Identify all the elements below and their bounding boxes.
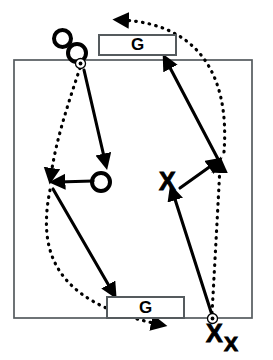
defense-player-1-label: X — [159, 167, 176, 195]
goal-top-label: G — [131, 35, 144, 55]
goal-box-bottom: G — [106, 296, 185, 319]
run-arrow-right-to-top-goal — [167, 62, 219, 161]
defense-player-1: X — [159, 169, 176, 194]
pass-arrow-center-o-to-left — [58, 181, 93, 182]
ball-marker-top — [74, 57, 87, 70]
play-diagram-canvas: G G X X X — [0, 0, 273, 360]
solid-arrow-group — [53, 62, 219, 315]
goal-box-top: G — [98, 34, 177, 56]
run-arrow-defense-x-to-right — [180, 163, 215, 188]
ball-marker-bottom — [206, 312, 219, 325]
goal-bottom-label: G — [139, 298, 152, 318]
defense-player-3-label: X — [224, 332, 238, 355]
dribble-path-bottom-ball-upward — [212, 166, 220, 313]
defense-player-3: X — [224, 333, 238, 354]
dribble-path-top-ball-to-left — [51, 68, 80, 175]
pass-arrow-top-to-center-o — [84, 70, 105, 161]
offense-player-3 — [90, 171, 112, 193]
